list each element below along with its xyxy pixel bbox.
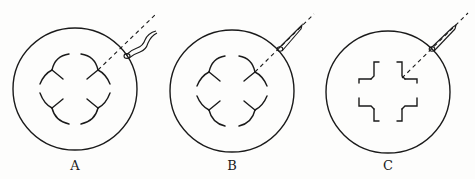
pipette-a — [124, 31, 157, 58]
dashed-axis-c — [402, 13, 468, 78]
diagram-canvas: A B — [0, 0, 475, 179]
panel-a: A — [13, 13, 157, 173]
bracket-cross-c — [359, 62, 417, 121]
petal-arcs-a — [40, 54, 110, 124]
panel-b: B — [170, 14, 314, 173]
dish-circle-b — [170, 30, 294, 152]
panel-c: C — [326, 13, 468, 173]
panel-label-c: C — [383, 158, 393, 173]
petal-arcs-b — [197, 56, 267, 126]
panel-label-b: B — [227, 158, 237, 173]
dish-circle-a — [13, 28, 137, 150]
panel-label-a: A — [69, 158, 80, 173]
pipette-b — [277, 25, 302, 51]
